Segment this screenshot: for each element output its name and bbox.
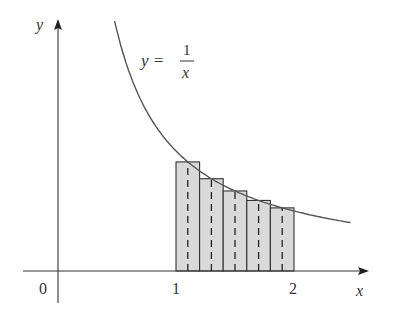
function-numerator: 1 (183, 42, 191, 58)
function-denominator: x (181, 64, 189, 81)
x-axis-label: x (355, 282, 363, 299)
tick-label-2: 2 (289, 280, 297, 297)
midpoint-rule-diagram: y x 0 1 2 y = 1 x (0, 0, 395, 322)
tick-label-0: 0 (39, 280, 47, 297)
function-label: y = 1 x (139, 42, 194, 81)
figure: y x 0 1 2 y = 1 x (0, 0, 395, 322)
y-axis-label: y (34, 16, 44, 34)
rectangle (247, 200, 271, 271)
tick-label-1: 1 (172, 280, 180, 297)
function-lhs: y = (139, 51, 164, 70)
